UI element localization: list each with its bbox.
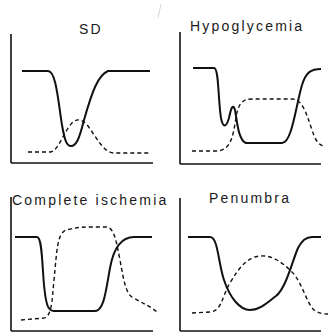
solid-trace bbox=[188, 237, 321, 310]
panel-complete-ischemia bbox=[11, 197, 157, 331]
panel-hypoglycemia bbox=[180, 32, 324, 164]
dashed-trace bbox=[21, 227, 157, 320]
solid-trace bbox=[22, 71, 150, 146]
diagram-canvas bbox=[0, 0, 335, 336]
panel-penumbra bbox=[180, 198, 328, 331]
solid-trace bbox=[15, 237, 152, 311]
solid-trace bbox=[193, 68, 321, 143]
dashed-trace bbox=[192, 256, 328, 314]
panel-sd bbox=[11, 34, 153, 163]
dashed-trace bbox=[28, 120, 150, 153]
